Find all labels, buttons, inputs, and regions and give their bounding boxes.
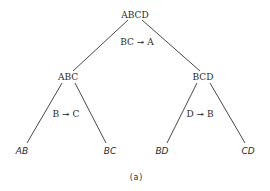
edge-label-root-split: BC ↠ A [120,38,153,47]
edge-label-left-split: B ↠ C [53,110,80,119]
edge-label-right-split: D ↠ B [186,110,213,119]
leaf-node-3: BD [155,147,168,156]
edge-right-leaf4 [210,83,245,143]
tree-edges [0,0,270,191]
leaf-node-1: AB [16,147,28,156]
node-right: BCD [193,73,214,82]
leaf-node-4: CD [241,147,254,156]
node-root: ABCD [121,11,148,20]
leaf-node-2: BC [104,147,116,156]
node-left: ABC [58,73,78,82]
edge-left-leaf2 [75,83,106,143]
figure-caption: (a) [129,174,143,182]
decomposition-tree-diagram: ABCD BC ↠ A ABC BCD B ↠ C D ↠ B AB BC BD… [0,0,270,191]
